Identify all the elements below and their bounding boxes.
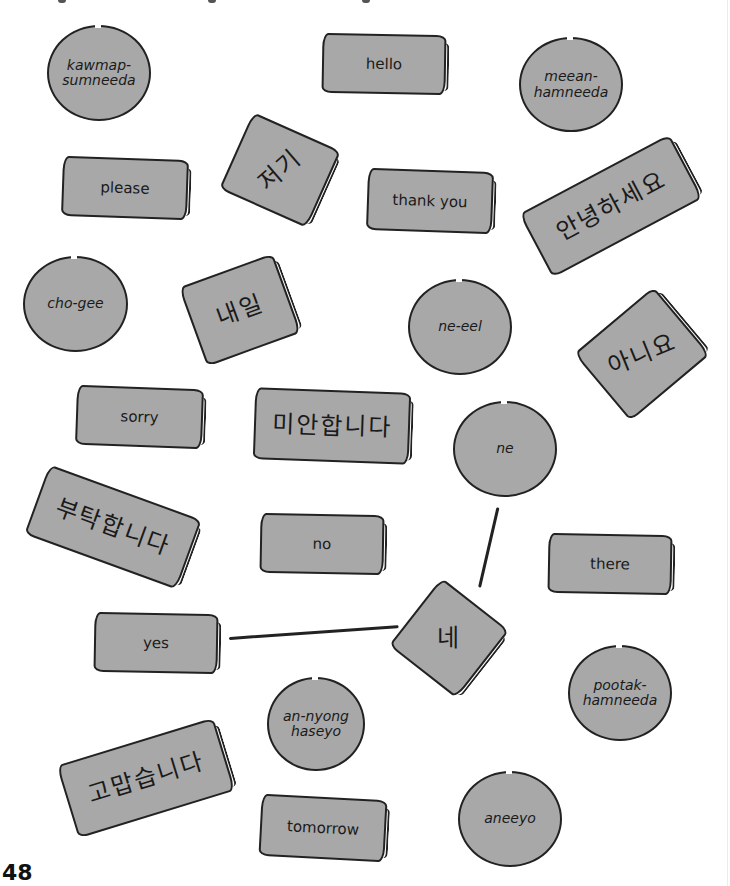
circle-aneeyo[interactable]: aneeyo xyxy=(458,771,562,867)
card-tomorrow[interactable]: tomorrow xyxy=(258,794,387,863)
circle-an-nyong-haseyo[interactable]: an-nyong haseyo xyxy=(267,677,365,771)
circle-cho-gee[interactable]: cho-gee xyxy=(23,256,128,352)
card-naeil[interactable]: 내일 xyxy=(179,253,302,366)
card-there[interactable]: there xyxy=(547,533,672,595)
connector-ne-circle-to-ne-korean xyxy=(478,507,499,588)
connector-yes-to-ne-korean xyxy=(229,625,399,640)
circle-label: ne-eel xyxy=(438,319,482,334)
card-annyeonghaseyo[interactable]: 안녕하세요 xyxy=(519,134,703,277)
circle-label: kawmap- sumneeda xyxy=(62,58,135,89)
card-mianhamnida[interactable]: 미안합니다 xyxy=(253,387,411,464)
card-sorry[interactable]: sorry xyxy=(75,385,204,449)
card-aniyo[interactable]: 아니요 xyxy=(574,287,710,421)
circle-label: aneeyo xyxy=(484,811,536,826)
card-jeogi[interactable]: 저기 xyxy=(219,112,341,228)
card-butakhamnida[interactable]: 부탁합니다 xyxy=(24,465,202,590)
circle-pootak-hamneeda[interactable]: pootak- hamneeda xyxy=(568,645,672,741)
page-edge xyxy=(727,0,728,886)
card-gomapseumnida[interactable]: 고맙습니다 xyxy=(56,718,235,839)
card-thank-you[interactable]: thank you xyxy=(366,168,494,234)
circle-label: pootak- hamneeda xyxy=(583,678,658,709)
card-ne[interactable]: 네 xyxy=(389,578,510,699)
matching-exercise-page: kawmap- sumneeda meean- hamneeda cho-gee… xyxy=(0,0,730,886)
cropped-text-above xyxy=(0,0,730,6)
card-yes[interactable]: yes xyxy=(93,612,218,674)
circle-label: ne xyxy=(496,441,514,456)
circle-ne-eel[interactable]: ne-eel xyxy=(408,279,512,375)
circle-label: cho-gee xyxy=(47,296,103,311)
circle-kawmap-sumneeda[interactable]: kawmap- sumneeda xyxy=(47,25,151,121)
circle-ne[interactable]: ne xyxy=(453,401,557,497)
card-please[interactable]: please xyxy=(61,156,189,220)
card-no[interactable]: no xyxy=(259,513,384,575)
circle-label: meean- hamneeda xyxy=(534,69,609,100)
page-number: 48 xyxy=(2,860,33,885)
circle-meean-hamneeda[interactable]: meean- hamneeda xyxy=(519,37,623,132)
card-hello[interactable]: hello xyxy=(321,33,446,95)
circle-label: an-nyong haseyo xyxy=(283,709,349,740)
